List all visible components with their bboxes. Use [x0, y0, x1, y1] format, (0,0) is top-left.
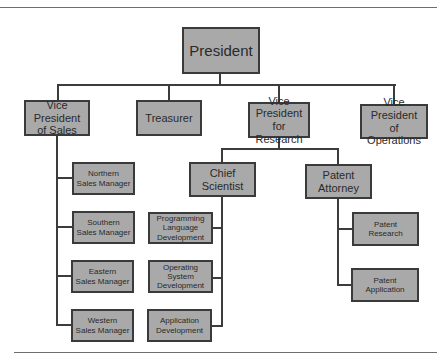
node-patent-attorney: Patent Attorney — [305, 164, 372, 199]
connector — [56, 324, 72, 326]
connector — [56, 226, 72, 228]
node-eastern-sales-manager: Eastern Sales Manager — [71, 260, 134, 293]
node-patent-research: Patent Research — [352, 212, 419, 246]
node-programming-language-development: Programming Language Development — [148, 212, 213, 244]
connector — [57, 84, 59, 100]
node-southern-sales-manager: Southern Sales Manager — [72, 211, 135, 244]
connector — [56, 275, 72, 277]
node-western-sales-manager: Western Sales Manager — [71, 309, 134, 342]
node-chief-scientist: Chief Scientist — [189, 162, 256, 197]
connector — [57, 84, 396, 86]
node-vp-research: Vice President for Research — [248, 102, 310, 138]
node-northern-sales-manager: Northern Sales Manager — [72, 162, 135, 195]
node-patent-application: Patent Application — [351, 268, 419, 302]
top-rule — [0, 7, 437, 8]
connector — [56, 135, 58, 326]
connector — [168, 84, 170, 100]
node-vp-operations: Vice President of Operations — [360, 104, 428, 139]
connector — [212, 227, 223, 229]
connector — [212, 277, 223, 279]
node-vp-sales: Vice President of Sales — [24, 100, 90, 136]
node-treasurer: Treasurer — [136, 100, 202, 136]
connector — [337, 228, 352, 230]
node-application-development: Application Development — [147, 309, 212, 342]
connector — [221, 196, 223, 326]
bottom-rule — [14, 352, 437, 353]
connector — [56, 177, 72, 179]
node-operating-system-development: Operating System Development — [148, 260, 213, 293]
connector — [337, 284, 352, 286]
connector — [337, 148, 339, 164]
connector — [212, 325, 223, 327]
connector — [221, 148, 223, 162]
connector — [337, 198, 339, 285]
connector — [221, 148, 339, 150]
node-president: President — [182, 27, 260, 74]
